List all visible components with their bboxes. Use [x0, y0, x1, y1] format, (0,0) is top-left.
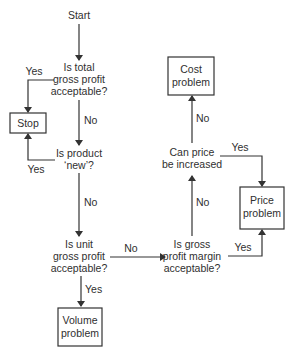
svg-text:Is total: Is total [64, 61, 95, 73]
svg-text:Is gross: Is gross [174, 238, 211, 250]
decision-product-new: Is product ‘new’? [56, 147, 102, 171]
decision-can-price-increase: Can price be increased [162, 146, 222, 170]
svg-text:acceptable?: acceptable? [164, 262, 221, 274]
cost-problem-label-1: Cost [180, 63, 202, 75]
price-problem-label-1: Price [250, 194, 274, 206]
label-price-yes: Yes [231, 141, 248, 153]
svg-text:be increased: be increased [162, 158, 222, 170]
label-total-yes: Yes [25, 65, 42, 77]
svg-text:acceptable?: acceptable? [51, 262, 108, 274]
svg-text:profit margin: profit margin [163, 250, 222, 262]
arrow-price-yes [220, 156, 262, 186]
svg-text:Can price: Can price [170, 146, 215, 158]
svg-text:Is unit: Is unit [65, 238, 93, 250]
label-new-yes: Yes [27, 163, 44, 175]
decision-unit-gross-profit: Is unit gross profit acceptable? [51, 238, 108, 274]
price-problem-label-2: problem [243, 207, 281, 219]
flowchart: Start Is total gross profit acceptable? … [0, 0, 292, 355]
label-unit-yes: Yes [85, 283, 102, 295]
label-margin-yes: Yes [234, 241, 251, 253]
arrow-new-yes [28, 134, 55, 160]
label-new-no: No [84, 196, 98, 208]
label-total-no: No [84, 114, 98, 126]
decision-gross-profit-margin: Is gross profit margin acceptable? [163, 238, 222, 274]
svg-text:gross profit: gross profit [53, 250, 105, 262]
cost-problem-label-2: problem [172, 76, 210, 88]
label-price-no: No [196, 112, 210, 124]
volume-problem-label-1: Volume [62, 314, 97, 326]
label-unit-no: No [124, 242, 138, 254]
decision-total-gross-profit: Is total gross profit acceptable? [51, 61, 108, 97]
svg-text:Is product: Is product [56, 147, 102, 159]
start-label: Start [68, 9, 90, 21]
svg-text:gross profit: gross profit [53, 73, 105, 85]
label-margin-no: No [196, 196, 210, 208]
volume-problem-label-2: problem [61, 327, 99, 339]
svg-text:acceptable?: acceptable? [51, 85, 108, 97]
svg-text:‘new’?: ‘new’? [64, 159, 94, 171]
stop-label: Stop [17, 117, 39, 129]
